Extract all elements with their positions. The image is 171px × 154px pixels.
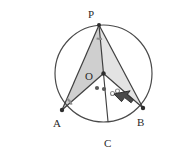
vertex-dot-a (60, 108, 64, 112)
vertex-label-p: P (88, 9, 94, 20)
vertex-dot-b (141, 106, 145, 110)
vertex-label-c: C (104, 138, 111, 149)
hollow-angle-dot-2 (116, 89, 120, 93)
diagram-canvas: P O A B C (0, 0, 171, 154)
vertex-dot-o (101, 71, 105, 75)
filled-angle-dot-1 (95, 86, 99, 90)
segment-oc (104, 74, 109, 122)
vertex-dot-p (97, 23, 101, 27)
filled-angle-dot-2 (102, 87, 106, 91)
vertex-label-a: A (53, 118, 61, 129)
vertex-label-o: O (85, 71, 93, 82)
vertex-label-b: B (137, 117, 144, 128)
hollow-angle-dot-1 (111, 92, 115, 96)
